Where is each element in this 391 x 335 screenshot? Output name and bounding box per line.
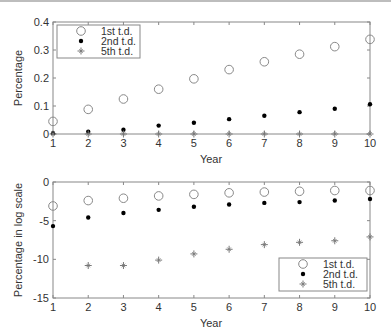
legend-label: 5th t.d. [101,45,133,57]
dot-marker [86,215,90,219]
y-tick-label: 0.2 [34,72,49,84]
x-tick-label: 5 [191,301,197,313]
legend: 1st t.d.2nd t.d.5th t.d. [279,258,367,291]
x-tick-label: 2 [85,301,91,313]
dot-marker [227,117,231,121]
dot-marker [227,202,231,206]
star-marker [367,233,374,240]
dot-marker [192,121,196,125]
circle-marker [190,75,199,84]
circle-marker [295,187,304,196]
dot-marker [333,198,337,202]
dot-marker [192,205,196,209]
x-tick-label: 7 [261,137,267,149]
star-marker [85,262,92,269]
y-tick-label: 0.1 [34,100,49,112]
y-tick-label: 0.3 [34,44,49,56]
circle-marker [225,189,234,198]
dot-marker [156,123,160,127]
series-2nd-t-d- [51,197,372,228]
x-tick-label: 3 [120,301,126,313]
circle-marker [84,105,93,114]
x-tick-label: 7 [261,301,267,313]
circle-marker [119,95,128,104]
dot-marker [262,114,266,118]
dot-marker [121,211,125,215]
x-tick-label: 9 [332,137,338,149]
plot-percentage: 1234567891000.10.20.30.4YearPercentage1s… [12,16,376,165]
y-tick-label: -15 [33,292,49,304]
circle-marker [295,50,304,59]
legend: 1st t.d.2nd t.d.5th t.d. [57,25,140,58]
dot-marker [368,197,372,201]
circle-marker [119,194,128,203]
dot-marker [297,110,301,114]
x-tick-label: 10 [364,137,376,149]
x-tick-label: 6 [226,301,232,313]
dot-marker [333,107,337,111]
dot-marker [51,224,55,228]
x-tick-label: 1 [50,137,56,149]
y-tick-label: 0 [43,128,49,140]
dot-marker [79,39,83,43]
star-marker [226,246,233,253]
x-tick-label: 9 [332,301,338,313]
plot-log-scale: 12345678910-15-10-50YearPercentage in lo… [12,176,376,329]
dot-marker [262,201,266,205]
star-marker [331,237,338,244]
x-tick-label: 3 [120,137,126,149]
circle-marker [260,57,269,66]
series-1st-t-d- [49,186,375,210]
dot-marker [297,200,301,204]
x-tick-label: 5 [191,137,197,149]
circle-marker [84,196,93,205]
x-tick-label: 8 [296,137,302,149]
x-tick-label: 6 [226,137,232,149]
star-marker [120,262,127,269]
circle-marker [330,42,339,51]
y-axis-label: Percentage [12,50,24,106]
circle-marker [260,188,269,197]
y-tick-label: 0 [43,176,49,188]
y-tick-label: -10 [33,253,49,265]
y-tick-label: -5 [39,215,49,227]
star-marker [296,239,303,246]
x-axis-label: Year [200,153,223,165]
star-marker [261,241,268,248]
x-tick-label: 8 [296,301,302,313]
dot-marker [156,208,160,212]
y-axis-label: Percentage in log scale [12,183,24,297]
legend-label: 5th t.d. [323,278,355,290]
x-axis-label: Year [200,317,223,329]
circle-marker [190,190,199,199]
x-tick-label: 1 [50,301,56,313]
dot-marker [301,272,305,276]
dot-marker [368,102,372,106]
x-tick-label: 2 [85,137,91,149]
star-marker [155,257,162,264]
x-tick-label: 10 [364,301,376,313]
circle-marker [330,186,339,195]
x-tick-label: 4 [156,137,162,149]
series-2nd-t-d- [51,102,372,135]
star-marker [190,250,197,257]
x-tick-label: 4 [156,301,162,313]
circle-marker [154,192,163,201]
y-tick-label: 0.4 [34,16,49,28]
circle-marker [154,85,163,94]
circle-marker [225,65,234,74]
chart-figure: 1234567891000.10.20.30.4YearPercentage1s… [0,0,391,335]
